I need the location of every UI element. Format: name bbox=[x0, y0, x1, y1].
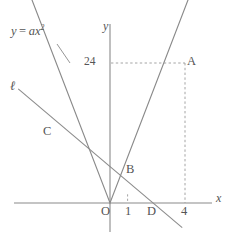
origin-label: O bbox=[101, 205, 110, 218]
equation-leader-line bbox=[57, 44, 70, 63]
y-tick-label-24: 24 bbox=[84, 56, 96, 68]
equation-exponent: 2 bbox=[40, 23, 44, 32]
line-l-label: ℓ bbox=[10, 79, 15, 92]
x-axis-label: x bbox=[216, 192, 221, 204]
y-axis-label: y bbox=[103, 20, 108, 32]
x-tick-label-4: 4 bbox=[181, 205, 187, 218]
x-tick-label-1: 1 bbox=[125, 205, 131, 218]
point-label-b: B bbox=[126, 163, 134, 176]
point-label-a: A bbox=[187, 55, 196, 68]
point-label-c: C bbox=[43, 125, 51, 138]
math-figure: y = ax2 y x 24 ℓ A B C D O 1 4 bbox=[0, 0, 236, 238]
point-label-d: D bbox=[147, 205, 156, 218]
curve-equation-label: y = ax2 bbox=[11, 24, 44, 38]
